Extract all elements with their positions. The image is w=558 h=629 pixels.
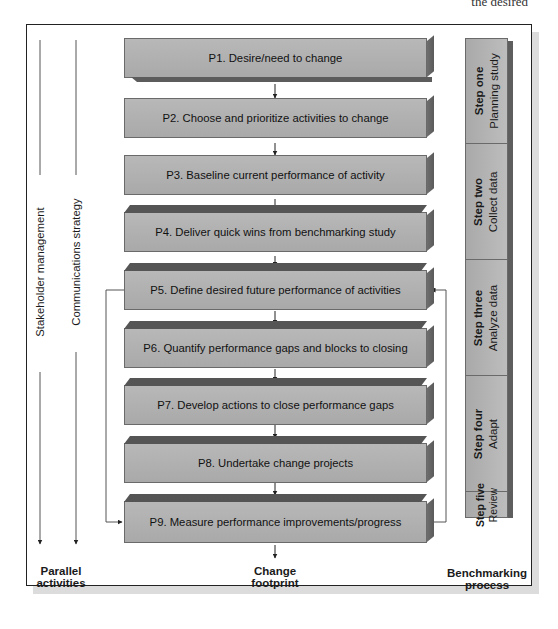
parallel-activities-heading: Parallel activities: [26, 565, 96, 589]
change-footprint-heading: Change footprint: [240, 565, 310, 589]
process-step-label: P9. Measure performance improvements/pro…: [150, 516, 402, 528]
benchmark-step-name: Analyze data: [487, 284, 502, 351]
benchmark-step-name: Collect data: [487, 171, 502, 232]
process-step-label: P3. Baseline current performance of acti…: [166, 169, 385, 181]
benchmarking-process-heading: Benchmarking process: [442, 567, 532, 591]
cropped-preceding-text: the desired: [0, 0, 558, 8]
benchmark-step-number: Step four: [472, 408, 487, 458]
benchmark-step-number: Step three: [472, 284, 487, 351]
process-step-p2: P2. Choose and prioritize activities to …: [124, 98, 427, 138]
process-step-label: P4. Deliver quick wins from benchmarking…: [155, 226, 395, 238]
benchmark-step-number: Step one: [472, 53, 487, 128]
process-step-p4: P4. Deliver quick wins from benchmarking…: [124, 212, 427, 252]
stakeholder-management-label: Stakeholder management: [34, 205, 46, 339]
benchmarking-column: Step one Planning study Step two Collect…: [465, 38, 508, 518]
benchmark-step-name: Planning study: [487, 53, 502, 128]
process-step-label: P7. Develop actions to close performance…: [157, 399, 394, 411]
process-step-p3: P3. Baseline current performance of acti…: [124, 155, 427, 195]
process-step-label: P1. Desire/need to change: [209, 52, 343, 64]
benchmark-step-two: Step two Collect data: [466, 144, 507, 260]
process-step-label: P6. Quantify performance gaps and blocks…: [143, 342, 407, 354]
process-step-p7: P7. Develop actions to close performance…: [124, 385, 427, 425]
benchmark-step-four: Step four Adapt: [466, 376, 507, 492]
process-step-label: P5. Define desired future performance of…: [150, 284, 401, 296]
benchmark-step-three: Step three Analyze data: [466, 260, 507, 376]
process-step-p5: P5. Define desired future performance of…: [124, 270, 427, 310]
communications-strategy-label: Communications strategy: [70, 195, 82, 329]
process-step-label: P8. Undertake change projects: [198, 457, 353, 469]
process-step-p6: P6. Quantify performance gaps and blocks…: [124, 328, 427, 368]
benchmark-step-number: Step two: [472, 171, 487, 232]
process-step-p8: P8. Undertake change projects: [124, 443, 427, 483]
benchmark-step-name: Adapt: [487, 408, 502, 458]
process-step-label: P2. Choose and prioritize activities to …: [162, 112, 388, 124]
benchmarking-column-side: [508, 41, 513, 518]
process-step-p9: P9. Measure performance improvements/pro…: [124, 501, 427, 543]
benchmark-step-five: Step five Review: [466, 492, 507, 517]
benchmark-step-name: Review: [487, 483, 500, 527]
benchmark-step-one: Step one Planning study: [466, 39, 507, 144]
process-step-p1: P1. Desire/need to change: [124, 38, 427, 78]
benchmark-step-number: Step five: [474, 483, 487, 527]
